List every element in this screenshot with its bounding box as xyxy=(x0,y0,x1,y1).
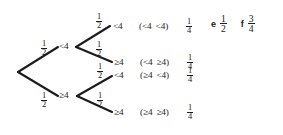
branch-root-to-ge4 xyxy=(18,72,58,96)
leaf-state-3: <4 xyxy=(114,71,124,80)
node-label-ge4: ≥4 xyxy=(59,91,68,100)
outcome-pair-2: (<4≥4) xyxy=(140,58,169,67)
answer-value-e: 1 2 xyxy=(220,14,227,35)
edge-prob-leaf2-numerator: 1 xyxy=(96,41,102,50)
answer-key-f: f xyxy=(241,19,244,29)
edge-prob-leaf1: 1 2 xyxy=(96,13,102,31)
outcome-second-1: <4 xyxy=(156,21,166,31)
leaf-state-4: ≥4 xyxy=(114,108,123,117)
outcome-paren-close-1: ) xyxy=(165,21,168,31)
branch-lt4-to-leaf2 xyxy=(76,47,112,62)
answer-f-denominator: 4 xyxy=(248,23,255,34)
outcome-second-3: <4 xyxy=(156,70,166,80)
edge-prob-leaf4-denominator: 2 xyxy=(97,100,103,110)
outcome-prob-3: 1 4 xyxy=(187,67,193,85)
outcome-prob-4-numerator: 1 xyxy=(187,104,193,113)
edge-prob-leaf1-numerator: 1 xyxy=(96,13,102,22)
branch-ge4-to-leaf3 xyxy=(77,76,112,96)
outcome-paren-close-2: ) xyxy=(166,57,169,67)
answer-item-e: e 1 2 xyxy=(211,14,227,35)
outcome-prob-3-denominator: 4 xyxy=(187,75,193,85)
outcome-pair-3: (≥4<4) xyxy=(140,71,169,80)
outcome-prob-1: 1 4 xyxy=(186,18,192,36)
leaf-state-2: ≥4 xyxy=(114,58,123,67)
answer-key-e: e xyxy=(211,19,216,29)
outcome-prob-1-numerator: 1 xyxy=(186,18,192,27)
outcome-first-4: ≥4 xyxy=(143,107,152,117)
node-label-lt4: <4 xyxy=(59,42,69,51)
branch-lt4-to-leaf1 xyxy=(76,26,110,47)
edge-prob-root-ge4: 1 2 xyxy=(41,92,47,110)
outcome-prob-2-numerator: 1 xyxy=(187,54,193,63)
outcome-pair-1: (<4<4) xyxy=(139,22,168,31)
edge-prob-root-lt4-denominator: 2 xyxy=(41,48,47,58)
edge-prob-root-lt4-numerator: 1 xyxy=(41,40,47,49)
edge-prob-leaf1-denominator: 2 xyxy=(96,21,102,31)
answers-list: e 1 2 f 3 4 xyxy=(211,14,255,35)
answer-value-f: 3 4 xyxy=(248,14,255,35)
edge-prob-leaf2-denominator: 2 xyxy=(96,49,102,59)
outcome-first-2: <4 xyxy=(143,57,153,67)
edge-prob-leaf2: 1 2 xyxy=(96,41,102,59)
outcome-first-1: <4 xyxy=(142,21,152,31)
branch-root-to-lt4 xyxy=(18,47,58,72)
edge-prob-root-lt4: 1 2 xyxy=(41,40,47,58)
outcome-paren-close-3: ) xyxy=(166,70,169,80)
edge-prob-leaf3-denominator: 2 xyxy=(97,71,103,81)
edge-prob-leaf3: 1 2 xyxy=(97,63,103,81)
answer-f-numerator: 3 xyxy=(248,14,255,24)
outcome-paren-close-4: ) xyxy=(166,107,169,117)
outcome-second-2: ≥4 xyxy=(157,57,166,67)
outcome-pair-4: (≥4≥4) xyxy=(140,108,169,117)
outcome-second-4: ≥4 xyxy=(156,107,165,117)
leaf-state-1: <4 xyxy=(113,22,123,31)
edge-prob-leaf4: 1 2 xyxy=(97,92,103,110)
outcome-prob-4-denominator: 4 xyxy=(187,112,193,122)
answer-item-f: f 3 4 xyxy=(241,14,255,35)
branch-ge4-to-leaf4 xyxy=(77,96,112,112)
outcome-prob-1-denominator: 4 xyxy=(186,26,192,36)
edge-prob-leaf4-numerator: 1 xyxy=(97,92,103,101)
edge-prob-leaf3-numerator: 1 xyxy=(97,63,103,72)
outcome-prob-3-numerator: 1 xyxy=(187,67,193,76)
outcome-first-3: ≥4 xyxy=(143,70,152,80)
edge-prob-root-ge4-numerator: 1 xyxy=(41,92,47,101)
answer-e-numerator: 1 xyxy=(220,14,227,24)
answer-e-denominator: 2 xyxy=(220,23,227,34)
outcome-prob-4: 1 4 xyxy=(187,104,193,122)
probability-tree-diagram: 1 2 1 2 <4 ≥4 1 2 1 2 1 2 1 2 xyxy=(0,0,283,135)
edge-prob-root-ge4-denominator: 2 xyxy=(41,100,47,110)
